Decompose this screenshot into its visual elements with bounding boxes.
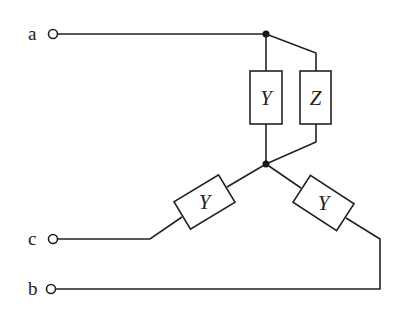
wire-c (58, 217, 183, 239)
wire-z-top (266, 34, 316, 71)
element-z-vertical-label: Z (310, 86, 322, 110)
wire-z-bottom (266, 124, 316, 164)
wire-y-right-top (266, 164, 301, 188)
element-y-vertical: Y (250, 71, 282, 124)
element-y-right: Y (293, 175, 354, 230)
element-y-left: Y (174, 175, 235, 229)
terminal-a-label: a (28, 23, 37, 44)
terminal-a (49, 30, 58, 39)
terminal-c-label: c (28, 228, 36, 249)
circuit-diagram: a Y Z Y c Y b (0, 0, 408, 320)
wire-y-left-top (227, 164, 266, 187)
wire-b (56, 218, 381, 289)
terminal-c (49, 235, 58, 244)
terminal-b (47, 285, 56, 294)
terminal-b-label: b (28, 278, 38, 299)
element-z-vertical: Z (300, 71, 331, 124)
